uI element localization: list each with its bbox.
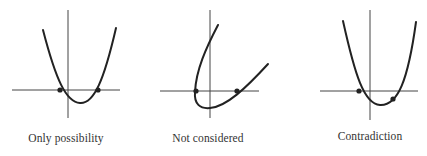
marked-point (234, 88, 239, 93)
marked-point (95, 87, 100, 92)
label-only-possibility: Only possibility (28, 132, 103, 144)
parabola-curve (43, 28, 116, 103)
parabola-curve (343, 21, 416, 105)
label-contradiction: Contradiction (338, 130, 403, 142)
panel-only-possibility (12, 10, 120, 118)
parabola-curve (195, 25, 268, 108)
panel-not-considered (160, 10, 268, 118)
marked-point (390, 96, 395, 101)
label-not-considered: Not considered (172, 132, 243, 144)
marked-point (193, 88, 198, 93)
panel-contradiction (320, 10, 418, 120)
marked-point (356, 88, 361, 93)
marked-point (57, 87, 62, 92)
